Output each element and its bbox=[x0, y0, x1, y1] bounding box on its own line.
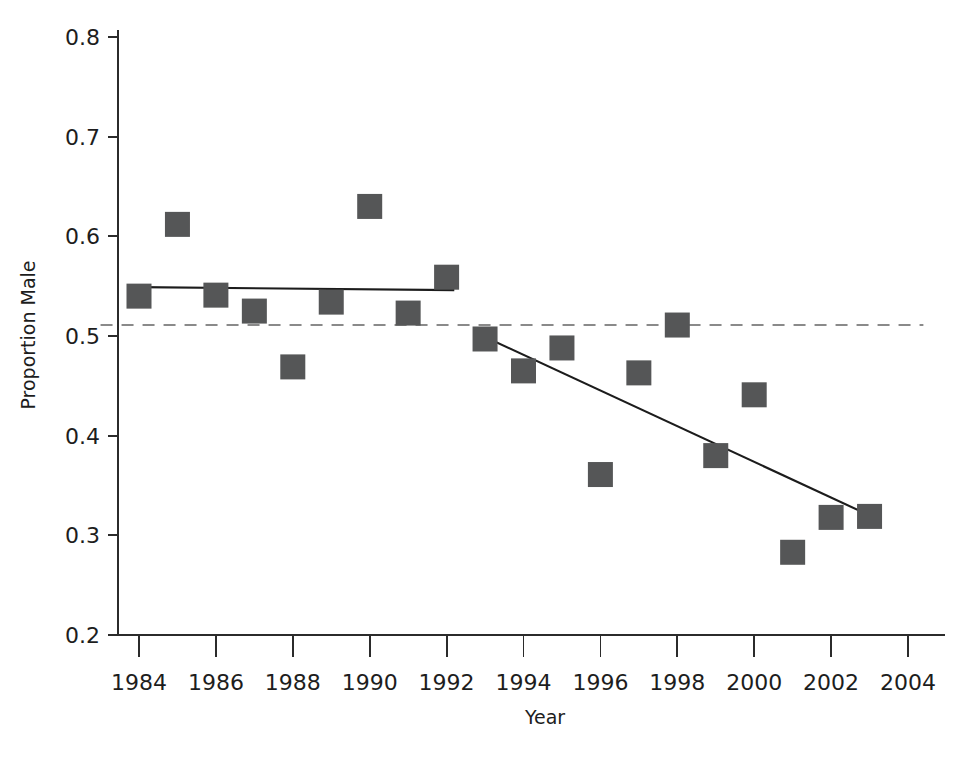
x-tick-label: 1986 bbox=[188, 670, 244, 695]
data-point-marker bbox=[127, 284, 152, 309]
data-point-marker bbox=[549, 335, 574, 360]
y-tick-label: 0.2 bbox=[65, 623, 100, 648]
y-tick-label: 0.4 bbox=[65, 424, 100, 449]
y-axis-title: Proportion Male bbox=[17, 260, 39, 409]
x-tick-label: 1988 bbox=[265, 670, 321, 695]
x-axis-title: Year bbox=[524, 706, 565, 728]
data-point-marker bbox=[434, 265, 459, 290]
x-tick-label: 1992 bbox=[419, 670, 475, 695]
x-tick-label: 1984 bbox=[111, 670, 167, 695]
data-point-marker bbox=[357, 194, 382, 219]
data-point-marker bbox=[396, 301, 421, 326]
data-point-marker bbox=[319, 290, 344, 315]
y-tick-label: 0.8 bbox=[65, 25, 100, 50]
data-point-marker bbox=[665, 313, 690, 338]
x-tick-label: 1994 bbox=[496, 670, 552, 695]
y-tick-label: 0.5 bbox=[65, 324, 100, 349]
proportion-male-scatter-chart: 0.20.30.40.50.60.70.8 198419861988199019… bbox=[0, 0, 955, 762]
x-tick-label: 2000 bbox=[726, 670, 782, 695]
chart-background bbox=[0, 0, 955, 762]
data-point-marker bbox=[203, 283, 228, 308]
x-tick-label: 2002 bbox=[803, 670, 859, 695]
x-tick-label: 1996 bbox=[572, 670, 628, 695]
x-tick-label: 1990 bbox=[342, 670, 398, 695]
chart-container: 0.20.30.40.50.60.70.8 198419861988199019… bbox=[0, 0, 955, 762]
data-point-marker bbox=[780, 540, 805, 565]
x-tick-label: 2004 bbox=[880, 670, 936, 695]
data-point-marker bbox=[857, 504, 882, 529]
data-point-marker bbox=[165, 212, 190, 237]
data-point-marker bbox=[703, 443, 728, 468]
data-point-marker bbox=[473, 326, 498, 351]
y-tick-label: 0.6 bbox=[65, 224, 100, 249]
data-point-marker bbox=[626, 360, 651, 385]
data-point-marker bbox=[511, 358, 536, 383]
data-point-marker bbox=[588, 462, 613, 487]
data-point-marker bbox=[280, 354, 305, 379]
data-point-marker bbox=[742, 382, 767, 407]
y-tick-label: 0.7 bbox=[65, 125, 100, 150]
data-point-marker bbox=[819, 505, 844, 530]
y-tick-label: 0.3 bbox=[65, 523, 100, 548]
x-tick-label: 1998 bbox=[649, 670, 705, 695]
data-point-marker bbox=[242, 299, 267, 324]
